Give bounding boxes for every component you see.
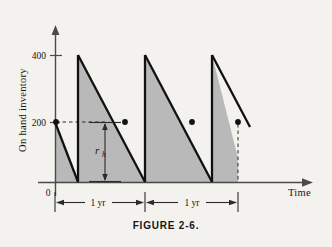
rh-label: r <box>95 144 100 156</box>
period-label-2: 1 yr <box>184 198 200 208</box>
period-label-1: 1 yr <box>90 198 106 208</box>
y-tick-label-400: 400 <box>32 51 47 61</box>
y-axis-label: On hand inventory <box>17 68 28 152</box>
rh-subscript-label: h <box>102 150 106 159</box>
marker-reorder-t0 <box>53 119 59 125</box>
y-tick-label-200: 200 <box>32 118 47 128</box>
origin-label: 0 <box>46 188 51 198</box>
marker-reorder-cycle3 <box>235 119 241 125</box>
inventory-sawtooth-figure: r h 1 yr 1 yr 400 200 0 Time On hand inv… <box>0 0 332 247</box>
x-axis-label: Time <box>288 187 311 198</box>
figure-caption: FIGURE 2-6. <box>0 220 332 231</box>
marker-reorder-cycle1 <box>122 119 128 125</box>
marker-reorder-cycle2 <box>189 119 195 125</box>
